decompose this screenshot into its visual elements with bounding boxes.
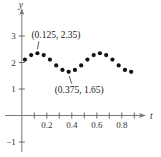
data-point [92,53,96,57]
data-point [60,68,64,72]
data-point [123,68,127,72]
annotation-label: (0.375, 1.65) [55,85,104,96]
data-points [23,51,133,74]
data-point [48,57,52,61]
annotations: (0.125, 2.35)(0.375, 1.65) [31,30,103,96]
x-tick-label: 0.6 [91,120,103,130]
data-point [54,63,58,67]
data-point [98,51,102,55]
x-axis-label: t [150,111,153,121]
data-point [42,53,46,57]
y-tick-label: −1 [6,137,16,147]
chart: ty 0.20.40.60.8321−1 (0.125, 2.35)(0.375… [0,0,161,157]
y-tick-label: 3 [11,31,16,41]
data-point [67,70,71,74]
data-point [117,63,121,67]
data-point [129,70,133,74]
y-tick-label: 2 [11,58,16,68]
data-point [35,51,39,55]
y-tick-label: 1 [11,84,16,94]
data-point [104,53,108,57]
data-point [110,57,114,61]
y-axis-label: y [18,0,24,10]
data-point [29,53,33,57]
x-tick-label: 0.2 [41,120,52,130]
annotation-leader [37,41,39,49]
data-point [85,57,89,61]
annotation-leader [69,76,72,84]
data-point [79,63,83,67]
x-tick-label: 0.4 [66,120,78,130]
data-point [23,57,27,61]
axes: ty [5,0,153,152]
annotation-label: (0.125, 2.35) [31,30,80,41]
data-point [73,68,77,72]
x-tick-label: 0.8 [116,120,128,130]
